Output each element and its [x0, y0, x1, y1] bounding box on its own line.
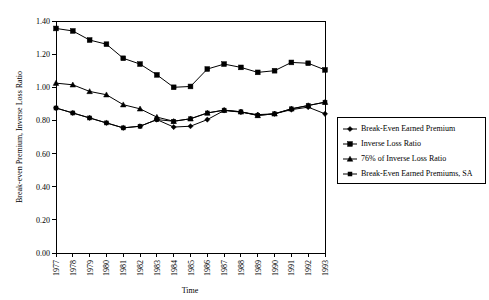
- x-tick-label: 1991: [287, 260, 296, 276]
- data-point-marker: [272, 68, 277, 73]
- data-point-marker: [205, 111, 209, 115]
- data-point-marker: [323, 100, 327, 104]
- x-axis-ticks: 1977197819791980198119821983198419851986…: [52, 253, 330, 276]
- data-point-marker: [289, 60, 294, 65]
- y-tick-label: 0.40: [36, 183, 50, 192]
- x-tick-label: 1985: [187, 260, 196, 276]
- data-point-marker: [306, 104, 310, 108]
- data-point-marker: [289, 107, 293, 111]
- data-point-marker: [121, 56, 126, 61]
- plot-border: [56, 21, 325, 253]
- data-point-marker: [255, 70, 260, 75]
- line-chart: Break-even Premium, Inverse Loss Ratio 0…: [0, 0, 489, 300]
- data-point-marker: [205, 67, 210, 72]
- data-point-marker: [205, 117, 210, 122]
- x-tick-label: 1987: [220, 260, 229, 276]
- axis-frame: [56, 21, 325, 253]
- x-tick-label: 1980: [102, 260, 111, 276]
- data-point-marker: [222, 108, 226, 112]
- data-series-group: [53, 26, 328, 130]
- legend-entry-label: Inverse Loss Ratio: [361, 139, 421, 148]
- data-point-marker: [171, 85, 176, 90]
- data-point-marker: [348, 142, 353, 147]
- data-point-marker: [172, 119, 176, 123]
- y-axis-title: Break-even Premium, Inverse Loss Ratio: [15, 71, 24, 203]
- x-tick-label: 1978: [69, 260, 78, 276]
- data-point-marker: [120, 102, 126, 107]
- data-point-marker: [70, 29, 75, 34]
- x-tick-label: 1990: [271, 260, 280, 276]
- data-point-marker: [322, 111, 327, 116]
- data-point-marker: [348, 172, 352, 176]
- y-tick-label: 1.00: [36, 83, 50, 92]
- data-point-marker: [54, 106, 58, 110]
- data-point-marker: [88, 116, 92, 120]
- data-point-marker: [273, 112, 277, 116]
- x-tick-label: 1982: [136, 260, 145, 276]
- data-point-marker: [323, 67, 328, 72]
- series-line: [56, 28, 325, 87]
- y-axis-ticks: 0.000.200.400.600.801.001.201.40: [36, 17, 56, 258]
- data-point-marker: [104, 121, 108, 125]
- x-tick-label: 1977: [52, 260, 61, 276]
- x-tick-label: 1981: [119, 260, 128, 276]
- data-point-marker: [171, 124, 176, 129]
- data-point-marker: [189, 117, 193, 121]
- legend-entry-label: Break-Even Earned Premiums, SA: [361, 169, 473, 178]
- data-point-marker: [222, 62, 227, 67]
- data-point-marker: [306, 61, 311, 66]
- data-point-marker: [256, 113, 260, 117]
- data-point-marker: [87, 38, 92, 43]
- data-point-marker: [188, 124, 193, 129]
- legend-entry-label: Break-Even Earned Premium: [361, 124, 456, 133]
- y-tick-label: 0.60: [36, 150, 50, 159]
- x-axis-title: Time: [182, 286, 199, 295]
- chart-figure: Break-even Premium, Inverse Loss Ratio 0…: [0, 0, 489, 300]
- data-point-marker: [71, 111, 75, 115]
- data-point-marker: [104, 42, 109, 47]
- data-point-marker: [54, 26, 59, 31]
- data-point-marker: [138, 62, 143, 67]
- x-tick-label: 1986: [203, 260, 212, 276]
- data-point-marker: [154, 72, 159, 77]
- x-tick-label: 1988: [237, 260, 246, 276]
- series-1: [54, 26, 328, 90]
- x-tick-label: 1989: [254, 260, 263, 276]
- y-axis-title-label: Break-even Premium, Inverse Loss Ratio: [15, 71, 24, 203]
- x-tick-label: 1983: [153, 260, 162, 276]
- data-point-marker: [239, 110, 243, 114]
- y-tick-label: 1.20: [36, 50, 50, 59]
- x-tick-label: 1992: [304, 260, 313, 276]
- x-tick-label: 1984: [170, 260, 179, 276]
- data-point-marker: [138, 124, 142, 128]
- data-point-marker: [239, 65, 244, 70]
- y-tick-label: 0.80: [36, 116, 50, 125]
- y-tick-label: 1.40: [36, 17, 50, 26]
- x-axis-title-label: Time: [182, 286, 199, 295]
- x-tick-label: 1979: [86, 260, 95, 276]
- data-point-marker: [188, 84, 193, 89]
- x-tick-label: 1993: [321, 260, 330, 276]
- legend-entry-label: 76% of Inverse Loss Ratio: [361, 154, 446, 163]
- y-tick-label: 0.00: [36, 249, 50, 258]
- y-tick-label: 0.20: [36, 216, 50, 225]
- chart-legend: Break-Even Earned PremiumInverse Loss Ra…: [337, 117, 485, 183]
- data-point-marker: [155, 118, 159, 122]
- legend-entry-3[interactable]: Break-Even Earned Premiums, SA: [343, 169, 473, 178]
- data-point-marker: [121, 126, 125, 130]
